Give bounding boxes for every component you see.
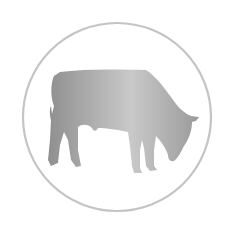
cow-icon (48, 69, 199, 173)
cow-badge (0, 0, 234, 234)
cow-badge-svg (0, 0, 234, 234)
